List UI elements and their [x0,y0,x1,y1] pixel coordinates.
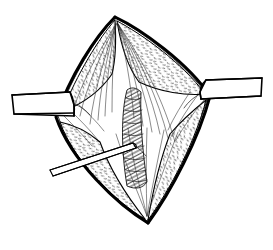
illustration-canvas [0,0,273,250]
retractor-right [200,78,262,99]
surgical-illustration [0,0,273,250]
retractor-left [12,92,74,116]
